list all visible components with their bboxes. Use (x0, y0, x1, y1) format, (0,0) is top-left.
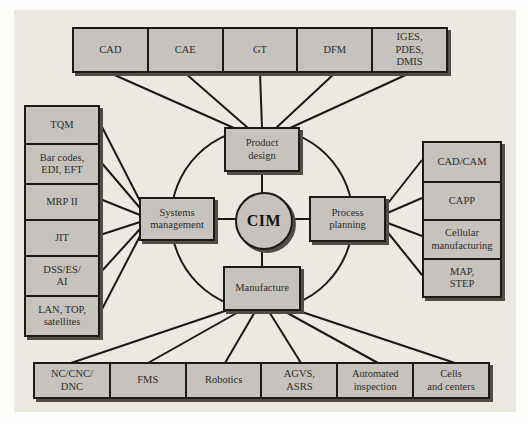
hub-systems-management: Systems management (139, 197, 215, 241)
node-barcodes-edi-eft: Bar codes, EDI, EFT (26, 143, 98, 183)
node-cae: CAE (147, 29, 222, 71)
node-robotics: Robotics (185, 364, 261, 397)
hub-process-planning: Process planning (309, 196, 386, 242)
node-nc-cnc-dnc: NC/CNC/ DNC (35, 364, 109, 397)
node-iges-pdes-dmis: IGES, PDES, DMIS (371, 29, 446, 71)
hub-manufacture: Manufacture (223, 266, 301, 311)
node-lan-top-satellites: LAN, TOP, satellites (26, 295, 98, 335)
node-dss-es-ai: DSS/ES/ AI (26, 255, 98, 295)
node-dfm: DFM (296, 29, 371, 71)
node-jit: JIT (26, 219, 98, 255)
node-map-step: MAP, STEP (424, 258, 500, 296)
node-tqm: TQM (26, 107, 98, 143)
cim-diagram: CAD CAE GT DFM IGES, PDES, DMIS TQM Bar … (0, 0, 528, 424)
node-gt: GT (222, 29, 297, 71)
node-cellular-manufacturing: Cellular manufacturing (424, 219, 500, 258)
hub-product-design: Product design (224, 127, 300, 172)
left-column: TQM Bar codes, EDI, EFT MRP II JIT DSS/E… (24, 105, 100, 337)
top-row: CAD CAE GT DFM IGES, PDES, DMIS (72, 27, 448, 73)
node-capp: CAPP (424, 181, 500, 219)
bottom-row: NC/CNC/ DNC FMS Robotics AGVS, ASRS Auto… (33, 362, 490, 399)
node-cad-cam: CAD/CAM (424, 143, 500, 181)
node-fms: FMS (109, 364, 185, 397)
right-column: CAD/CAM CAPP Cellular manufacturing MAP,… (422, 141, 502, 298)
node-agvs-asrs: AGVS, ASRS (260, 364, 336, 397)
node-cad: CAD (74, 29, 147, 71)
cim-center-node: CIM (235, 192, 293, 250)
node-automated-inspection: Automated inspection (336, 364, 412, 397)
node-cells-and-centers: Cells and centers (412, 364, 488, 397)
node-mrp2: MRP II (26, 183, 98, 219)
